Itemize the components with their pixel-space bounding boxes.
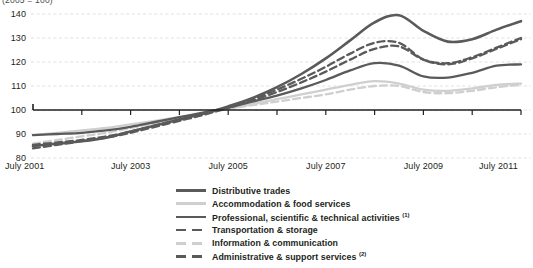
x-axis-tick-label: July 2001 bbox=[5, 161, 44, 171]
legend-swatch-icon bbox=[176, 184, 206, 197]
x-axis-tick-label: July 2005 bbox=[208, 161, 247, 171]
legend-item[interactable]: Information & communication bbox=[176, 237, 526, 250]
legend-item[interactable]: Distributive trades bbox=[176, 184, 526, 197]
legend-swatch-icon bbox=[176, 210, 206, 223]
legend-footnote-marker: (1) bbox=[402, 212, 409, 218]
x-axis-tick-label: July 2009 bbox=[404, 161, 443, 171]
legend-item-label: Professional, scientific & technical act… bbox=[212, 212, 410, 223]
legend-swatch-icon bbox=[176, 237, 206, 250]
legend-item-label: Transportation & storage bbox=[212, 225, 318, 235]
chart-figure: (2005 = 100) 1401301201101009080 July 20… bbox=[0, 0, 533, 268]
legend-item[interactable]: Transportation & storage bbox=[176, 224, 526, 237]
legend-item-label: Distributive trades bbox=[212, 186, 290, 196]
series-line bbox=[33, 15, 521, 146]
legend-item-label: Administrative & support services (2) bbox=[212, 251, 366, 262]
y-axis-tick-label: 110 bbox=[0, 81, 26, 91]
legend-item-label: Accommodation & food services bbox=[212, 199, 350, 209]
x-axis-tick-label: July 2003 bbox=[111, 161, 150, 171]
legend-swatch-icon bbox=[176, 224, 206, 237]
legend-swatch-icon bbox=[176, 197, 206, 210]
y-axis-tick-label: 90 bbox=[0, 129, 26, 139]
x-axis-tick-label: July 2011 bbox=[479, 161, 518, 171]
legend-item[interactable]: Administrative & support services (2) bbox=[176, 250, 526, 263]
legend-item[interactable]: Accommodation & food services bbox=[176, 197, 526, 210]
legend-item[interactable]: Professional, scientific & technical act… bbox=[176, 210, 526, 223]
legend-swatch-icon bbox=[176, 250, 206, 263]
series-line bbox=[33, 81, 521, 135]
y-axis-tick-label: 100 bbox=[0, 105, 26, 115]
y-axis-tick-label: 140 bbox=[0, 9, 26, 19]
plot-svg bbox=[0, 0, 533, 170]
chart-legend: Distributive tradesAccommodation & food … bbox=[176, 184, 526, 263]
x-axis-tick-label: July 2007 bbox=[306, 161, 345, 171]
y-axis-tick-label: 120 bbox=[0, 57, 26, 67]
plot-area bbox=[0, 0, 533, 170]
y-axis-tick-label: 130 bbox=[0, 33, 26, 43]
legend-item-label: Information & communication bbox=[212, 238, 338, 248]
legend-footnote-marker: (2) bbox=[359, 251, 366, 257]
